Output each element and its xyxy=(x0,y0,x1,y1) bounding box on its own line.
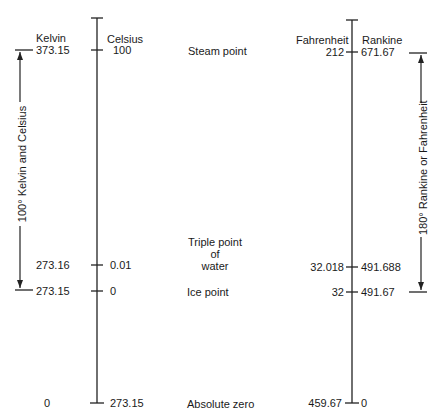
right-span-label: 180° Rankine or Fahrenheit xyxy=(417,103,429,237)
kelvin-steam-value: 373.15 xyxy=(36,44,70,56)
fahrenheit-ice-value: 32 xyxy=(300,286,344,298)
rankine-ice-value: 491.67 xyxy=(361,286,395,298)
absolute-zero-label: Absolute zero xyxy=(187,398,254,410)
fahrenheit-absolute-zero-value: 459.67 xyxy=(290,397,342,409)
rankine-absolute-zero-value: 0 xyxy=(361,397,367,409)
left-span-label: 100° Kelvin and Celsius xyxy=(16,102,28,226)
kelvin-absolute-zero-value: 0 xyxy=(44,397,50,409)
diagram-lines xyxy=(0,0,436,417)
rankine-header: Rankine xyxy=(362,34,402,46)
triple-point-label-line2: of xyxy=(175,248,255,260)
fahrenheit-header: Fahrenheit xyxy=(296,34,349,46)
celsius-steam-value: 100 xyxy=(113,44,131,56)
kelvin-header: Kelvin xyxy=(36,32,66,44)
ice-point-label: Ice point xyxy=(187,286,229,298)
celsius-absolute-zero-value: 273.15 xyxy=(110,397,144,409)
triple-point-label-line1: Triple point xyxy=(175,236,255,248)
kelvin-ice-value: 273.15 xyxy=(36,285,70,297)
rankine-steam-value: 671.67 xyxy=(361,46,395,58)
fahrenheit-steam-value: 212 xyxy=(300,46,344,58)
fahrenheit-triple-value: 32.018 xyxy=(290,261,344,273)
celsius-ice-value: 0 xyxy=(110,285,116,297)
steam-point-label: Steam point xyxy=(188,45,247,57)
celsius-triple-value: 0.01 xyxy=(110,259,131,271)
kelvin-triple-value: 273.16 xyxy=(36,259,70,271)
triple-point-label-line3: water xyxy=(175,260,255,272)
rankine-triple-value: 491.688 xyxy=(361,261,401,273)
